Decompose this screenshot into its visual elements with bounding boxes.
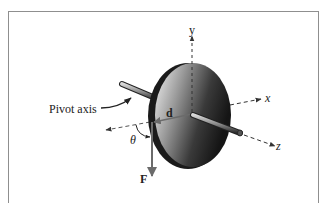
z-axis (244, 135, 275, 146)
pivot-axis-leader (101, 98, 131, 108)
z-axis-label: z (275, 139, 281, 153)
pivot-axis-label: Pivot axis (49, 102, 97, 116)
force-label: F (140, 172, 147, 186)
y-axis-label: y (189, 23, 195, 37)
angle-label: θ (130, 133, 136, 147)
x-axis (230, 99, 261, 105)
distance-label: d (166, 106, 173, 120)
neg-x-axis (106, 122, 150, 130)
x-axis-label: x (264, 91, 271, 105)
torque-diagram: Pivot axis y x z d F θ (0, 0, 323, 203)
angle-arc (136, 125, 150, 137)
